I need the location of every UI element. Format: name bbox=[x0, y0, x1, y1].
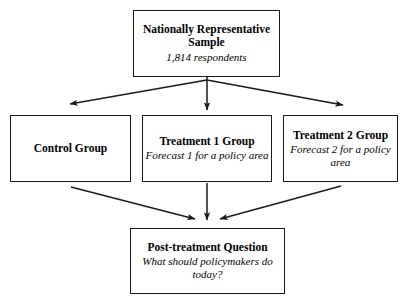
node-control-group: Control Group bbox=[10, 115, 131, 182]
node-treatment-2-group: Treatment 2 Group Forecast 2 for a polic… bbox=[283, 115, 398, 182]
node-title: Treatment 2 Group bbox=[293, 129, 388, 142]
node-nationally-representative-sample: Nationally Representative Sample 1,814 r… bbox=[133, 10, 280, 77]
edge-sample-to-control bbox=[70, 80, 207, 104]
flowchart-diagram: Nationally Representative Sample 1,814 r… bbox=[0, 0, 410, 303]
node-subtitle: 1,814 respondents bbox=[166, 51, 246, 64]
node-subtitle: Forecast 2 for a policy area bbox=[284, 143, 397, 169]
node-title: Post-treatment Question bbox=[147, 241, 267, 254]
node-title: Treatment 1 Group bbox=[159, 135, 254, 148]
edge-control-to-post bbox=[71, 187, 195, 219]
node-title: Control Group bbox=[34, 142, 107, 155]
node-subtitle: Forecast 1 for a policy area bbox=[146, 149, 269, 162]
edge-treatment-2-to-post bbox=[220, 186, 341, 219]
edge-sample-to-treatment-2 bbox=[207, 80, 343, 105]
node-treatment-1-group: Treatment 1 Group Forecast 1 for a polic… bbox=[142, 115, 272, 182]
node-post-treatment-question: Post-treatment Question What should poli… bbox=[130, 228, 285, 294]
node-subtitle: What should policymakers do today? bbox=[131, 255, 284, 281]
node-title: Nationally Representative Sample bbox=[134, 23, 279, 50]
